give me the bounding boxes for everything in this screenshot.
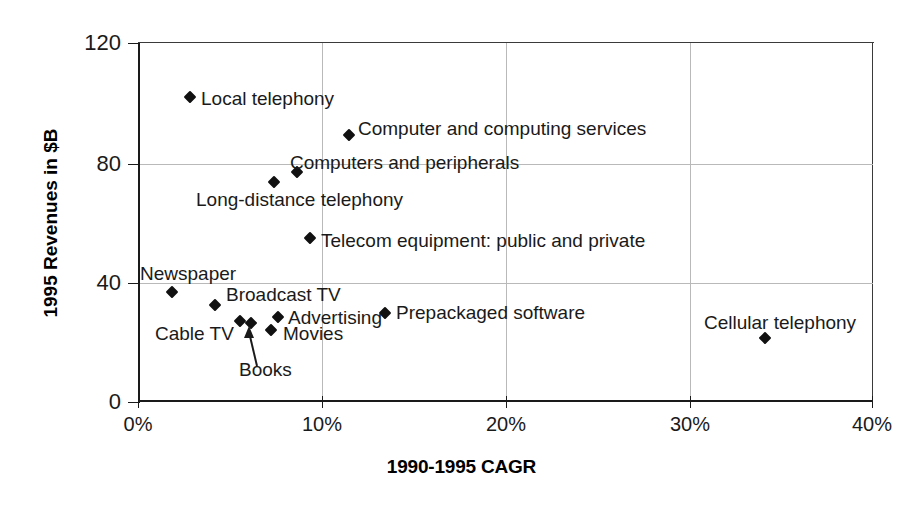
point-label-cable-tv: Cable TV	[155, 324, 234, 343]
yticklabel-0: 0	[109, 389, 121, 415]
tick-y-40	[128, 283, 140, 284]
point-label-telecom-equipment: Telecom equipment: public and private	[321, 231, 645, 250]
scatter-chart-figure: 0% 10% 20% 30% 40% 120 80 40 0 1990-1995…	[0, 0, 923, 513]
tick-y-0	[128, 402, 140, 403]
gridline-x-20	[506, 43, 507, 402]
books-leader-arrow-icon	[235, 322, 265, 368]
x-axis-title: 1990-1995 CAGR	[0, 456, 923, 478]
xticklabel-10: 10%	[302, 413, 342, 436]
xticklabel-0: 0%	[124, 413, 153, 436]
y-axis-title: 1995 Revenues in $B	[40, 43, 62, 403]
tick-y-120	[128, 43, 140, 44]
point-label-long-distance-telephony: Long-distance telephony	[196, 190, 403, 209]
yticklabel-80: 80	[97, 151, 121, 177]
xticklabel-30: 30%	[670, 413, 710, 436]
tick-y-80	[128, 164, 140, 165]
point-label-cellular-telephony: Cellular telephony	[704, 313, 856, 332]
yticklabel-120: 120	[84, 30, 121, 56]
point-label-computer-and-computing-services: Computer and computing services	[358, 119, 646, 138]
tick-x-10	[322, 396, 323, 408]
point-label-broadcast-tv: Broadcast TV	[226, 285, 341, 304]
tick-x-30	[690, 396, 691, 408]
point-label-movies: Movies	[283, 324, 343, 343]
point-label-prepackaged-software: Prepackaged software	[396, 303, 585, 322]
tick-x-40	[872, 396, 873, 408]
yticklabel-40: 40	[97, 270, 121, 296]
point-label-newspaper: Newspaper	[140, 264, 236, 283]
tick-x-20	[506, 396, 507, 408]
xticklabel-40: 40%	[852, 413, 892, 436]
gridline-x-30	[690, 43, 691, 402]
xticklabel-20: 20%	[486, 413, 526, 436]
point-label-local-telephony: Local telephony	[201, 89, 334, 108]
point-label-computers-and-peripherals: Computers and peripherals	[290, 153, 519, 172]
plot-frame-right	[872, 42, 873, 403]
